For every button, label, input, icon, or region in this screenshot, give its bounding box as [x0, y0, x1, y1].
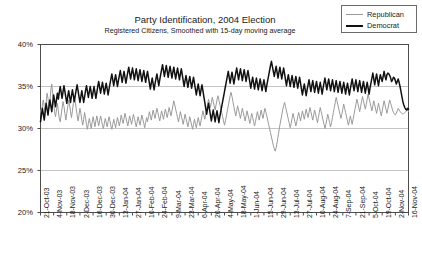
plot-area	[0, 0, 422, 270]
x-axis-tick-label: 2-Nov-04	[398, 190, 405, 218]
x-axis-tick-label: 21-Sep-04	[359, 186, 366, 218]
x-axis-tick-label: 13-Jul-04	[293, 189, 300, 217]
y-axis-tick-label: 30%	[5, 124, 33, 133]
y-axis-tick-label: 20%	[5, 208, 33, 217]
x-axis-tick-label: 18-Nov-03	[69, 186, 76, 218]
x-axis-tick-label: 13-Jan-04	[122, 187, 129, 218]
x-axis-tick-label: 15-Jun-04	[267, 187, 274, 218]
x-axis-tick-label: 6-Apr-04	[201, 191, 208, 217]
y-axis-tick-label: 40%	[5, 40, 33, 49]
x-axis-tick-label: 10-Feb-04	[148, 186, 155, 217]
x-axis-tick-label: 4-Nov-03	[56, 190, 63, 218]
party-identification-chart: Party Identification, 2004 Election Regi…	[0, 0, 422, 270]
x-axis-tick-label: 7-Sep-04	[345, 190, 352, 218]
x-axis-tick-label: 21-Oct-03	[43, 187, 50, 217]
x-axis-tick-label: 29-Jun-04	[280, 187, 287, 218]
x-axis-tick-label: 27-Jul-04	[306, 189, 313, 217]
x-axis-tick-label: 5-Oct-04	[372, 191, 379, 217]
x-axis-tick-label: 30-Dec-03	[109, 186, 116, 218]
y-axis-tick-label: 35%	[5, 82, 33, 91]
x-axis-tick-label: 9-Mar-04	[175, 190, 182, 218]
x-axis-tick-label: 27-Jan-04	[135, 187, 142, 218]
x-axis-tick-label: 4-May-04	[227, 189, 234, 218]
x-axis-tick-label: 16-Nov-04	[411, 186, 418, 218]
x-axis-tick-label: 1-Jun-04	[253, 191, 260, 218]
x-axis-tick-label: 10-Aug-04	[319, 186, 326, 218]
x-axis-tick-label: 23-Mar-04	[188, 186, 195, 217]
x-axis-tick-label: 20-Apr-04	[214, 187, 221, 217]
x-axis-tick-label: 2-Dec-03	[83, 190, 90, 218]
x-axis-tick-label: 16-Dec-03	[96, 186, 103, 218]
x-axis-tick-label: 19-Oct-04	[385, 187, 392, 217]
x-axis-tick-label: 24-Aug-04	[332, 186, 339, 218]
x-axis-tick-label: 18-May-04	[240, 185, 247, 218]
x-axis-tick-label: 24-Feb-04	[161, 186, 168, 217]
y-axis-tick-label: 25%	[5, 166, 33, 175]
